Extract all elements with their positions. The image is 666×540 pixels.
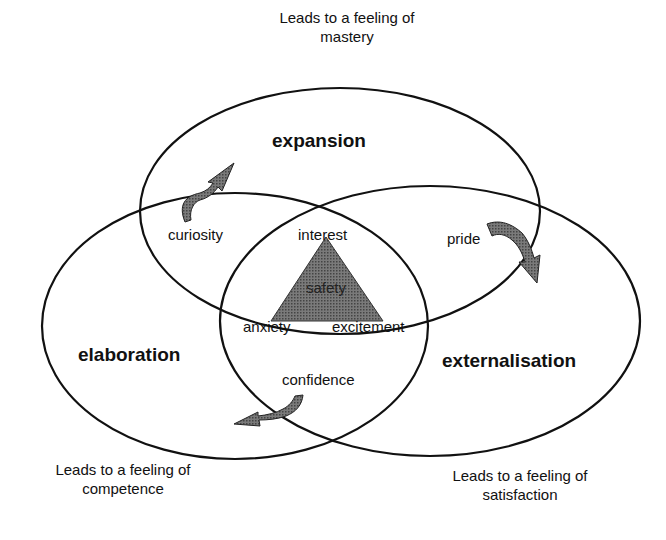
anxiety-label: anxiety — [243, 318, 291, 335]
externalisation-caption: Leads to a feeling of satisfaction — [425, 466, 615, 504]
externalisation-label: externalisation — [442, 350, 576, 372]
curiosity-label: curiosity — [168, 226, 223, 243]
caption-line: mastery — [247, 27, 447, 46]
confidence-label: confidence — [282, 371, 355, 388]
expansion-label: expansion — [272, 130, 366, 152]
pride-arrow-icon — [487, 222, 540, 283]
confidence-arrow-icon — [234, 395, 303, 426]
caption-line: Leads to a feeling of — [425, 466, 615, 485]
pride-label: pride — [447, 230, 480, 247]
safety-label: safety — [306, 279, 346, 296]
caption-line: satisfaction — [425, 485, 615, 504]
elaboration-label: elaboration — [78, 344, 180, 366]
caption-line: competence — [28, 479, 218, 498]
expansion-caption: Leads to a feeling of mastery — [247, 8, 447, 46]
caption-line: Leads to a feeling of — [247, 8, 447, 27]
elaboration-caption: Leads to a feeling of competence — [28, 460, 218, 498]
excitement-label: excitement — [332, 318, 405, 335]
caption-line: Leads to a feeling of — [28, 460, 218, 479]
venn-diagram-canvas — [0, 0, 666, 540]
interest-label: interest — [298, 226, 347, 243]
